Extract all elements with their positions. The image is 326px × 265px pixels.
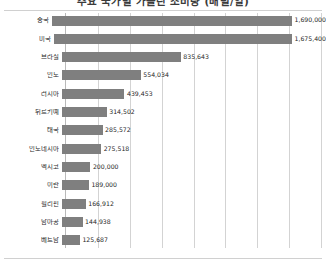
bar-value-label: 125,687 bbox=[80, 237, 108, 243]
bar-track: 189,000 bbox=[62, 179, 326, 192]
bar bbox=[52, 16, 292, 26]
chart-figure: 주요 국가별 가솔린 소비량 (배럴/일) 중국1,690,000미국1,675… bbox=[0, 0, 326, 265]
bar bbox=[62, 52, 181, 62]
category-label: 인도 bbox=[0, 72, 62, 78]
category-label: 베트남 bbox=[0, 237, 62, 243]
bar-track: 554,034 bbox=[62, 69, 326, 82]
category-label: 태국 bbox=[0, 127, 62, 133]
bar-track: 285,572 bbox=[62, 124, 326, 137]
category-label: 미국 bbox=[0, 36, 54, 42]
bar-track: 275,518 bbox=[62, 142, 326, 155]
category-label: 브라질 bbox=[0, 54, 62, 60]
bar-value-label: 166,912 bbox=[86, 201, 114, 207]
bar-track: 1,675,400 bbox=[54, 32, 326, 45]
bar-row: 미국1,675,400 bbox=[0, 32, 326, 45]
bar-row: 필리핀166,912 bbox=[0, 197, 326, 210]
bar bbox=[62, 125, 103, 135]
bar bbox=[62, 107, 107, 117]
bar-value-label: 189,000 bbox=[89, 182, 117, 188]
bar bbox=[62, 70, 141, 80]
bar-value-label: 144,938 bbox=[83, 219, 111, 225]
bar-track: 835,643 bbox=[62, 51, 326, 64]
bar-row: 인도네시아275,518 bbox=[0, 142, 326, 155]
bar bbox=[62, 162, 90, 172]
bar-value-label: 1,675,400 bbox=[292, 36, 326, 42]
bar-row: 멕시코200,000 bbox=[0, 161, 326, 174]
bar-value-label: 554,034 bbox=[141, 72, 169, 78]
title-divider bbox=[4, 10, 322, 11]
category-label: 튀르키예 bbox=[0, 109, 62, 115]
bar-value-label: 1,690,000 bbox=[292, 17, 326, 23]
bar-value-label: 835,643 bbox=[181, 54, 209, 60]
bar bbox=[54, 34, 292, 44]
bar bbox=[62, 235, 80, 245]
bar-track: 166,912 bbox=[62, 197, 326, 210]
bar-row: 이란189,000 bbox=[0, 179, 326, 192]
bar-row: 브라질835,643 bbox=[0, 51, 326, 64]
category-label: 남아공 bbox=[0, 219, 62, 225]
bar-track: 439,453 bbox=[62, 87, 326, 100]
bar-track: 125,687 bbox=[62, 234, 326, 247]
bar-value-label: 314,502 bbox=[107, 109, 135, 115]
category-label: 필리핀 bbox=[0, 201, 62, 207]
bar-track: 314,502 bbox=[62, 106, 326, 119]
chart-title: 주요 국가별 가솔린 소비량 (배럴/일) bbox=[0, 0, 326, 8]
bar-value-label: 285,572 bbox=[103, 127, 131, 133]
bar-row: 중국1,690,000 bbox=[0, 14, 326, 27]
bar bbox=[62, 144, 101, 154]
bar bbox=[62, 89, 124, 99]
plot-area: 중국1,690,000미국1,675,400브라질835,643인도554,03… bbox=[0, 13, 326, 252]
bar bbox=[62, 180, 89, 190]
bar-row: 태국285,572 bbox=[0, 124, 326, 137]
category-label: 멕시코 bbox=[0, 164, 62, 170]
bar-track: 144,938 bbox=[62, 216, 326, 229]
category-label: 이란 bbox=[0, 182, 62, 188]
bar bbox=[62, 217, 83, 227]
bar bbox=[62, 199, 86, 209]
bar-value-label: 200,000 bbox=[90, 164, 118, 170]
bar-value-label: 275,518 bbox=[101, 146, 129, 152]
bar-rows: 중국1,690,000미국1,675,400브라질835,643인도554,03… bbox=[0, 13, 326, 248]
bar-track: 200,000 bbox=[62, 161, 326, 174]
figure-bottom-divider bbox=[4, 258, 322, 259]
bar-value-label: 439,453 bbox=[124, 91, 152, 97]
bar-row: 러시아439,453 bbox=[0, 87, 326, 100]
category-label: 러시아 bbox=[0, 91, 62, 97]
bar-row: 남아공144,938 bbox=[0, 216, 326, 229]
bar-row: 튀르키예314,502 bbox=[0, 106, 326, 119]
category-label: 중국 bbox=[0, 17, 52, 23]
bar-row: 베트남125,687 bbox=[0, 234, 326, 247]
category-label: 인도네시아 bbox=[0, 146, 62, 152]
bar-row: 인도554,034 bbox=[0, 69, 326, 82]
bar-track: 1,690,000 bbox=[52, 14, 326, 27]
